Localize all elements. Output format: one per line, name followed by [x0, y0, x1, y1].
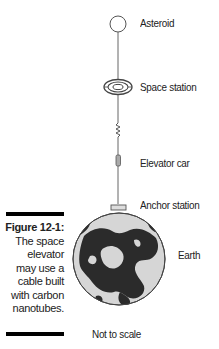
space-elevator-diagram: Asteroid Space station Elevator car Anch…	[0, 0, 219, 349]
figure-caption: Figure 12-1: The space elevator may use …	[0, 221, 64, 316]
caption-bottom-rule	[6, 332, 64, 336]
anchor-station-label: Anchor station	[140, 199, 200, 211]
caption-top-rule	[6, 212, 64, 216]
caption-line: may use a	[0, 262, 64, 276]
caption-line: cable built	[0, 275, 64, 289]
figure-number: Figure 12-1:	[0, 221, 64, 235]
scale-note: Not to scale	[92, 328, 141, 340]
caption-line: nanotubes.	[0, 302, 64, 316]
asteroid-icon	[110, 16, 126, 32]
anchor-station-icon	[111, 205, 126, 210]
earth-label: Earth	[178, 249, 200, 261]
caption-line: elevator	[0, 248, 64, 262]
caption-line: The space	[0, 235, 64, 249]
earth-icon	[73, 213, 165, 306]
space-station-icon	[104, 80, 132, 95]
space-station-label: Space station	[140, 81, 196, 93]
caption-line: with carbon	[0, 289, 64, 303]
elevator-car-icon	[116, 155, 121, 166]
asteroid-label: Asteroid	[140, 17, 174, 29]
elevator-car-label: Elevator car	[140, 157, 190, 169]
